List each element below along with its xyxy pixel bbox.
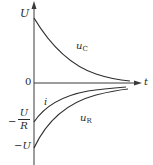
- y-axis-arrow-icon: [32, 1, 37, 9]
- y-top-label: U: [20, 8, 29, 19]
- x-axis-label: t: [144, 77, 148, 87]
- origin-label: 0: [25, 77, 31, 87]
- frac-denominator: R: [18, 121, 30, 131]
- i-label: i: [44, 97, 47, 107]
- rc-discharge-chart: U 0 t uC i uR − U R −U: [0, 0, 153, 165]
- neg-sign: −: [8, 117, 16, 127]
- ur-label-sub: R: [86, 117, 91, 125]
- uc-label-sub: C: [82, 45, 87, 53]
- x-axis-arrow-icon: [134, 81, 142, 86]
- uc-label: uC: [76, 41, 88, 53]
- frac-numerator: U: [18, 108, 30, 118]
- ur-label: uR: [80, 113, 92, 125]
- neg-u-label: −U: [14, 141, 31, 151]
- neg-u-over-r-label: U R: [18, 108, 30, 131]
